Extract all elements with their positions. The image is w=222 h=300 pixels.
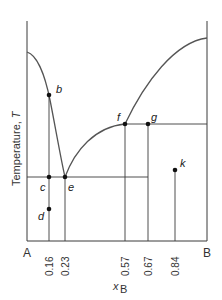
point-d	[47, 207, 52, 212]
liquidus-curve-right	[125, 38, 207, 124]
component-a-label: A	[23, 246, 31, 260]
component-b-label: B	[203, 246, 211, 260]
liquidus-curve-middle	[65, 124, 125, 177]
y-axis-symbol: T	[10, 110, 22, 118]
label-k: k	[180, 157, 186, 169]
x-axis-subscript: B	[120, 283, 127, 295]
tick-0-23: 0.23	[60, 256, 71, 276]
label-g: g	[151, 111, 158, 123]
y-axis-title: Temperature, T	[10, 110, 22, 186]
x-axis-title: x	[112, 280, 119, 292]
label-e: e	[68, 181, 74, 193]
point-c	[47, 175, 52, 180]
label-d: d	[38, 210, 45, 222]
tick-0-57: 0.57	[120, 256, 131, 276]
label-c: c	[40, 181, 46, 193]
y-axis-title-text: Temperature,	[10, 118, 22, 186]
tick-0-84: 0.84	[170, 256, 181, 276]
phase-diagram: b c d e f g k A B 0.16 0.23 0.57 0.67 0.…	[0, 0, 222, 300]
label-f: f	[117, 111, 121, 123]
label-b: b	[56, 83, 62, 95]
point-b	[47, 93, 52, 98]
tick-0-67: 0.67	[143, 256, 154, 276]
point-k	[173, 168, 178, 173]
liquidus-curve-left	[27, 52, 65, 177]
tick-0-16: 0.16	[44, 256, 55, 276]
point-e	[63, 175, 68, 180]
point-g	[146, 122, 151, 127]
point-f	[123, 122, 128, 127]
